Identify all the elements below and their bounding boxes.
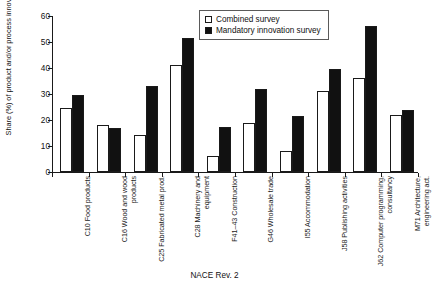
y-axis-tick: 60 [52, 16, 53, 17]
y-axis-tick-label: 60 [24, 11, 50, 21]
bar-group [134, 16, 158, 172]
legend-label-mandatory: Mandatory innovation survey [216, 25, 321, 36]
y-axis-tick-label: 40 [24, 63, 50, 73]
bar-combined-survey [353, 78, 365, 172]
x-axis-tick-label: C16 Wood and wood products [121, 176, 145, 268]
y-axis-tick: 50 [52, 42, 53, 43]
bar-mandatory-survey [109, 128, 121, 172]
x-axis-tick-label: F41–43 Construction [231, 176, 255, 268]
bar-combined-survey [317, 91, 329, 172]
bar-mandatory-survey [182, 38, 194, 172]
bar-combined-survey [280, 151, 292, 172]
x-axis-tick-label: G46 Wholesale trade [267, 176, 291, 268]
bar-group [97, 16, 121, 172]
bar-mandatory-survey [365, 26, 377, 172]
x-axis-tick-label: J58 Publishing activities [341, 176, 365, 268]
y-axis-tick: 20 [52, 120, 53, 121]
x-axis-tick-label: C10 Food products [84, 176, 108, 268]
y-axis-tick-label: 10 [24, 141, 50, 151]
legend-swatch-combined-icon [205, 16, 212, 23]
bar-group [353, 16, 377, 172]
chart-legend: Combined survey Mandatory innovation sur… [199, 10, 329, 40]
bar-group [390, 16, 414, 172]
bar-combined-survey [390, 115, 402, 172]
bar-group [170, 16, 194, 172]
bar-mandatory-survey [72, 95, 84, 172]
x-axis-tick-label: J62 Computer programming, consultancy [377, 176, 401, 268]
x-axis-tick-label: C28 Machinery and equipment [194, 176, 218, 268]
bar-combined-survey [60, 108, 72, 172]
bar-combined-survey [134, 135, 146, 172]
bar-combined-survey [97, 125, 109, 172]
y-axis-tick: 30 [52, 94, 53, 95]
y-axis-tick: 40 [52, 68, 53, 69]
legend-item-mandatory: Mandatory innovation survey [205, 25, 321, 36]
bar-combined-survey [243, 123, 255, 172]
bar-mandatory-survey [402, 110, 414, 172]
bar-combined-survey [170, 65, 182, 172]
bar-mandatory-survey [292, 116, 304, 172]
y-axis-tick-label: 30 [24, 89, 50, 99]
bar-mandatory-survey [255, 89, 267, 172]
bar-mandatory-survey [146, 86, 158, 172]
y-axis-tick-label: 0 [24, 167, 50, 177]
x-axis-tick-label: I55 Accommodation [304, 176, 328, 268]
y-axis-tick: 10 [52, 146, 53, 147]
y-axis-tick-label: 20 [24, 115, 50, 125]
bar-combined-survey [207, 156, 219, 172]
legend-label-combined: Combined survey [216, 14, 280, 25]
x-axis-tick-label: C25 Fabricated metal prod. [158, 176, 182, 268]
legend-swatch-mandatory-icon [205, 27, 212, 34]
bar-mandatory-survey [219, 127, 231, 173]
x-axis-tick-labels: C10 Food productsC16 Wood and wood produ… [52, 176, 418, 268]
y-axis-tick-label: 50 [24, 37, 50, 47]
bar-group [60, 16, 84, 172]
legend-item-combined: Combined survey [205, 14, 321, 25]
bar-mandatory-survey [329, 69, 341, 172]
x-axis-tick-label: M71 Architecture, engineering act. [414, 176, 436, 268]
x-axis-title: NACE Rev. 2 [0, 271, 429, 280]
